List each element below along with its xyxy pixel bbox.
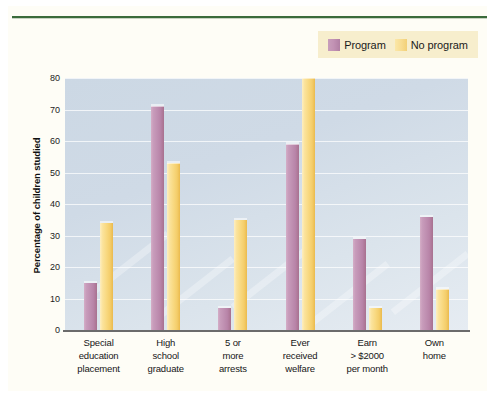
x-tick-label: Highschoolgraduate: [132, 336, 199, 375]
bar-face: [167, 163, 180, 330]
bar-face: [151, 106, 164, 330]
gridline: [65, 204, 468, 205]
bar-program[interactable]: [151, 106, 164, 330]
bar-top-highlight: [84, 281, 97, 284]
x-tick-label: Ownhome: [401, 336, 468, 362]
x-tick-label-line: Own: [401, 336, 468, 349]
gridline: [65, 173, 468, 174]
plot-wrapper: Percentage of children studied 010203040…: [0, 0, 495, 399]
gridline: [65, 110, 468, 111]
bar-top-highlight: [286, 142, 299, 145]
gridline: [65, 267, 468, 268]
bar-top-highlight: [100, 221, 113, 224]
bar-no-program[interactable]: [436, 289, 449, 330]
bar-program[interactable]: [84, 283, 97, 330]
bar-face: [84, 283, 97, 330]
x-tick-label-line: Ever: [267, 336, 334, 349]
x-tick-label-line: school: [132, 349, 199, 362]
x-tick-label-line: home: [401, 349, 468, 362]
bar-face: [369, 308, 382, 330]
bar-face: [420, 217, 433, 330]
page-edge-left: [0, 0, 8, 399]
x-tick-label-line: 5 or: [199, 336, 266, 349]
bar-top-highlight: [302, 78, 315, 79]
x-tick-label-line: graduate: [132, 362, 199, 375]
gridline: [65, 78, 468, 79]
x-tick-label: Earn> $2000per month: [334, 336, 401, 375]
x-tick-label-line: more: [199, 349, 266, 362]
bar-no-program[interactable]: [369, 308, 382, 330]
x-tick-label-line: welfare: [267, 362, 334, 375]
x-tick-label-line: > $2000: [334, 349, 401, 362]
gridline: [65, 236, 468, 237]
x-tick-label-line: Earn: [334, 336, 401, 349]
x-tick-label: 5 ormorearrests: [199, 336, 266, 375]
bar-face: [100, 223, 113, 330]
y-axis-title: Percentage of children studied: [31, 131, 42, 281]
x-tick-label-line: education: [65, 349, 132, 362]
y-tick-label: 70: [42, 105, 60, 115]
gridline: [65, 141, 468, 142]
figure-container: Program No program Percentage of childre…: [0, 0, 495, 399]
bar-no-program[interactable]: [302, 78, 315, 330]
x-tick-label-line: Special: [65, 336, 132, 349]
bar-top-highlight: [234, 218, 247, 221]
bar-top-highlight: [151, 104, 164, 107]
x-tick-label-line: per month: [334, 362, 401, 375]
plot-area: [65, 78, 468, 330]
page-edge-right: [487, 0, 495, 399]
page-edge-bottom: [0, 391, 495, 399]
bar-program[interactable]: [286, 144, 299, 330]
y-tick-label: 60: [42, 136, 60, 146]
bar-no-program[interactable]: [234, 220, 247, 330]
x-tick-label: Everreceivedwelfare: [267, 336, 334, 375]
y-tick-label: 80: [42, 73, 60, 83]
bar-no-program[interactable]: [100, 223, 113, 330]
bar-no-program[interactable]: [167, 163, 180, 330]
x-tick-label-line: High: [132, 336, 199, 349]
bar-top-highlight: [353, 237, 366, 240]
bar-program[interactable]: [353, 239, 366, 330]
x-tick-label-line: arrests: [199, 362, 266, 375]
x-tick-label-line: placement: [65, 362, 132, 375]
page-edge-top: [0, 0, 495, 6]
y-tick-label: 20: [42, 262, 60, 272]
bar-top-highlight: [218, 306, 231, 309]
y-tick-label: 50: [42, 168, 60, 178]
y-tick-label: 40: [42, 199, 60, 209]
bar-face: [234, 220, 247, 330]
x-tick-label: Specialeducationplacement: [65, 336, 132, 375]
bar-program[interactable]: [218, 308, 231, 330]
bar-face: [286, 144, 299, 330]
bar-top-highlight: [436, 287, 449, 290]
bar-face: [218, 308, 231, 330]
bar-face: [436, 289, 449, 330]
bar-top-highlight: [369, 306, 382, 309]
gridline: [65, 299, 468, 300]
x-tick-label-line: received: [267, 349, 334, 362]
bar-face: [302, 78, 315, 330]
y-tick-label: 0: [42, 325, 60, 335]
bar-face: [353, 239, 366, 330]
bar-program[interactable]: [420, 217, 433, 330]
y-tick-label: 30: [42, 231, 60, 241]
x-axis-line: [63, 330, 470, 332]
bar-top-highlight: [420, 215, 433, 218]
y-tick-label: 10: [42, 294, 60, 304]
bar-top-highlight: [167, 161, 180, 164]
